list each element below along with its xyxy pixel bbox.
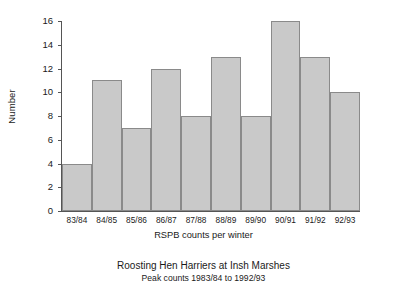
x-axis-tick-label: 87/88 (181, 215, 211, 225)
chart-caption: Roosting Hen Harriers at Insh Marshes Pe… (0, 259, 407, 284)
x-axis-tick-label: 89/90 (241, 215, 271, 225)
x-axis-tick-label: 85/86 (122, 215, 152, 225)
bar (92, 80, 122, 211)
bar (211, 57, 241, 211)
y-axis-tick-label: 2 (48, 181, 53, 192)
bar (151, 69, 181, 212)
bar (62, 164, 92, 212)
y-axis-tick-label: 14 (42, 39, 53, 50)
x-axis-tick-label: 86/87 (151, 215, 181, 225)
y-axis-tick-label: 10 (42, 86, 53, 97)
x-axis-tick-label: 84/85 (92, 215, 122, 225)
chart-subtitle: Peak counts 1983/84 to 1992/93 (0, 272, 407, 284)
chart-title: Roosting Hen Harriers at Insh Marshes (0, 259, 407, 272)
bar-chart-figure: Number 0246810121416 83/8484/8585/8686/8… (0, 0, 407, 295)
y-axis-label: Number (0, 0, 22, 212)
y-axis-tick-label: 6 (48, 134, 53, 145)
y-axis-tick-mark (58, 211, 62, 212)
plot-area (62, 21, 360, 211)
x-axis-tick-label: 92/93 (330, 215, 360, 225)
y-axis-label-text: Number (6, 89, 17, 123)
x-axis-spine (62, 211, 360, 212)
y-axis-tick-label: 12 (42, 63, 53, 74)
x-axis-tick-label: 91/92 (300, 215, 330, 225)
bar (122, 128, 152, 211)
y-axis-tick-label: 0 (48, 205, 53, 216)
y-axis-tick-label: 8 (48, 110, 53, 121)
x-axis-label: RSPB counts per winter (0, 230, 407, 240)
bar (181, 116, 211, 211)
x-axis-tick-label: 90/91 (271, 215, 301, 225)
bar (241, 116, 271, 211)
y-axis-tick-label: 16 (42, 15, 53, 26)
bar (271, 21, 301, 211)
bar (330, 92, 360, 211)
x-axis-tick-label: 83/84 (62, 215, 92, 225)
y-axis-tick-label: 4 (48, 158, 53, 169)
bar (300, 57, 330, 211)
x-axis-tick-label: 88/89 (211, 215, 241, 225)
